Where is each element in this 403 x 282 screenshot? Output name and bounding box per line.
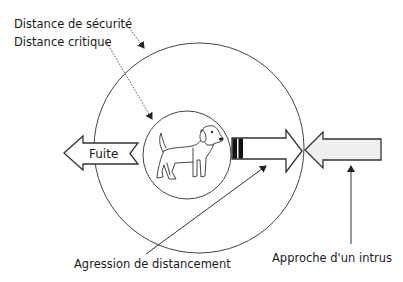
distancing-aggression-arrow	[232, 130, 302, 172]
aggression-band-1	[233, 139, 238, 159]
flight-arrow: Fuite	[64, 136, 138, 170]
dog-icon	[157, 126, 223, 179]
intruder-arrow	[305, 132, 381, 168]
distancing-aggression-label: Agression de distancement	[74, 257, 231, 271]
intruder-approach-label: Approche d'un intrus	[272, 251, 392, 265]
aggression-band-2	[239, 139, 244, 159]
flight-label: Fuite	[89, 147, 118, 161]
critical-distance-pointer	[107, 43, 152, 119]
critical-distance-label: Distance critique	[14, 35, 112, 49]
safety-distance-pointer	[127, 25, 144, 48]
safety-distance-label: Distance de sécurité	[14, 17, 132, 31]
distance-diagram: Distance de sécurité Distance critique F…	[0, 0, 403, 282]
